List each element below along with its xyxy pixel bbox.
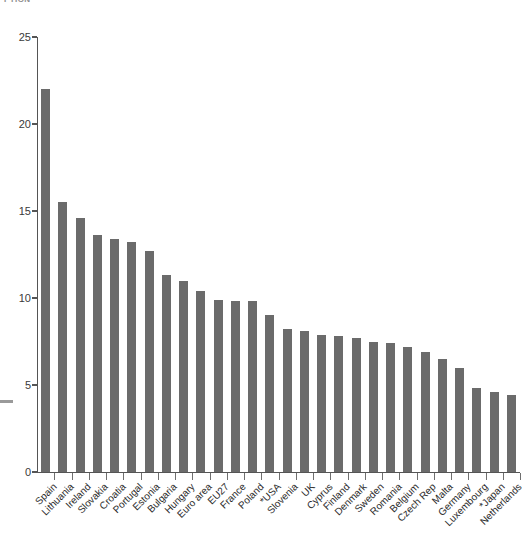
y-tick-label: 10 [19, 292, 31, 304]
clipped-left-marker [0, 400, 13, 403]
bar [334, 336, 343, 472]
x-tick-mark [158, 473, 159, 480]
x-tick-mark [365, 473, 366, 480]
y-tick-label: 25 [19, 31, 31, 43]
y-tick-label: 0 [25, 466, 31, 478]
x-tick-mark [520, 473, 521, 480]
bar [110, 239, 119, 472]
y-tick-label: 5 [25, 379, 31, 391]
x-tick-mark [313, 473, 314, 480]
y-tick-mark [32, 471, 37, 473]
bar [214, 300, 223, 472]
x-tick-mark [72, 473, 73, 480]
x-tick-mark [451, 473, 452, 480]
bar [248, 301, 257, 472]
x-tick-mark [210, 473, 211, 480]
bar [507, 395, 516, 472]
bar [421, 352, 430, 472]
x-tick-mark [192, 473, 193, 480]
x-tick-mark [399, 473, 400, 480]
x-tick-mark [89, 473, 90, 480]
x-tick-mark [54, 473, 55, 480]
y-tick-label: 15 [19, 205, 31, 217]
bar [352, 338, 361, 472]
bar-chart-figure: PTION 0510152025 SpainLithuaniaIrelandSl… [0, 0, 524, 546]
bar [265, 315, 274, 472]
y-axis-line [37, 37, 38, 473]
bar [386, 343, 395, 472]
bar [58, 202, 67, 472]
y-tick-mark [32, 36, 37, 38]
bar [490, 392, 499, 472]
x-tick-mark [244, 473, 245, 480]
x-tick-mark [175, 473, 176, 480]
bar [76, 218, 85, 472]
y-tick-label: 20 [19, 118, 31, 130]
bar [179, 281, 188, 472]
x-tick-mark [279, 473, 280, 480]
bar [369, 342, 378, 473]
bar [127, 242, 136, 472]
y-tick-mark [32, 210, 37, 212]
bar [196, 291, 205, 472]
bar [403, 347, 412, 472]
clipped-page-title: PTION [4, 0, 30, 4]
x-tick-mark [227, 473, 228, 480]
bar [472, 388, 481, 472]
x-tick-mark [503, 473, 504, 480]
plot-area: 0510152025 SpainLithuaniaIrelandSlovakia… [37, 37, 520, 472]
bar [317, 335, 326, 472]
x-tick-mark [434, 473, 435, 480]
x-tick-mark [417, 473, 418, 480]
y-tick-mark [32, 384, 37, 386]
bar [438, 359, 447, 472]
bar [41, 89, 50, 472]
bar [162, 275, 171, 472]
x-tick-mark [141, 473, 142, 480]
x-tick-mark [468, 473, 469, 480]
x-tick-mark [330, 473, 331, 480]
bar [300, 331, 309, 472]
bar [455, 368, 464, 472]
bar [283, 329, 292, 472]
y-tick-mark [32, 297, 37, 299]
y-tick-mark [32, 123, 37, 125]
x-tick-mark [261, 473, 262, 480]
x-tick-mark [382, 473, 383, 480]
x-tick-mark [106, 473, 107, 480]
x-tick-mark [348, 473, 349, 480]
bar [93, 235, 102, 472]
x-tick-mark [123, 473, 124, 480]
x-tick-mark [486, 473, 487, 480]
bar [145, 251, 154, 472]
bar [231, 301, 240, 472]
x-tick-mark [296, 473, 297, 480]
